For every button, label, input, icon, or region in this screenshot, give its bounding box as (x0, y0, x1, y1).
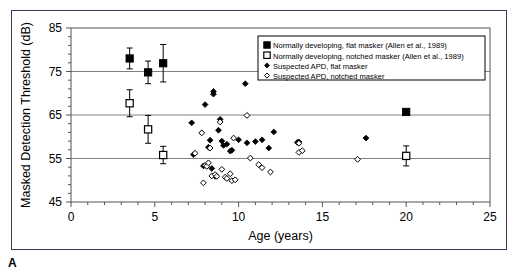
data-point (199, 130, 205, 136)
chart-canvas: 05101520254555657585Age (years)Masked De… (0, 0, 522, 279)
ytick-label: 75 (49, 65, 63, 79)
data-point (363, 135, 369, 141)
xtick-label: 15 (316, 210, 330, 224)
legend: Normally developing, flat masker (Allen … (258, 36, 485, 81)
panel-label: A (8, 256, 17, 270)
data-point (271, 129, 277, 135)
data-point (259, 137, 265, 143)
data-point (403, 108, 410, 115)
legend-label: Suspected APD, notched masker (273, 72, 385, 81)
ytick-label: 65 (49, 108, 63, 122)
figure-panel-a: 05101520254555657585Age (years)Masked De… (0, 0, 522, 279)
data-point (355, 156, 361, 162)
y-axis-title: Masked Detection Threshold (dB) (19, 22, 33, 208)
data-point (266, 145, 272, 151)
data-point (207, 137, 213, 143)
data-point (247, 155, 253, 161)
data-point (403, 152, 410, 159)
data-point (219, 166, 225, 172)
data-point (144, 69, 151, 76)
data-point (227, 171, 233, 177)
data-point (201, 180, 207, 186)
series-3 (189, 81, 369, 179)
series-2 (126, 90, 410, 166)
legend-label: Normally developing, flat masker (Allen … (273, 41, 447, 50)
legend-marker (264, 52, 270, 58)
xtick-label: 5 (151, 210, 158, 224)
data-point (160, 151, 167, 158)
xtick-label: 20 (400, 210, 414, 224)
xtick-label: 0 (68, 210, 75, 224)
data-point (244, 140, 250, 146)
xtick-label: 25 (483, 210, 497, 224)
data-point (202, 102, 208, 108)
x-axis-title: Age (years) (248, 229, 313, 243)
series-4 (192, 113, 360, 186)
legend-label: Normally developing, notched masker (All… (273, 52, 464, 61)
ytick-label: 85 (49, 21, 63, 35)
data-point (268, 169, 274, 175)
legend-marker (264, 42, 270, 48)
legend-label: Suspected APD, flat masker (273, 62, 368, 71)
data-point (189, 120, 195, 126)
data-point (126, 55, 133, 62)
data-point (126, 100, 133, 107)
data-point (216, 127, 222, 133)
data-point (160, 60, 167, 67)
data-point (242, 81, 248, 87)
xtick-label: 10 (232, 210, 246, 224)
data-point (252, 139, 258, 145)
ytick-label: 45 (49, 195, 63, 209)
ytick-label: 55 (49, 152, 63, 166)
data-point (144, 126, 151, 133)
data-point (244, 113, 250, 119)
